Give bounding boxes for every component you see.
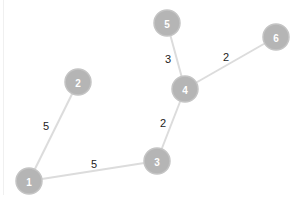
graph-canvas: 55232 123456 [0,0,305,207]
node-label: 3 [154,157,160,168]
edge-weight-label: 3 [165,53,171,65]
node-2[interactable]: 2 [65,69,91,95]
edge-1-2 [29,82,78,181]
node-3[interactable]: 3 [144,148,170,174]
edge-weight-label: 5 [43,120,49,132]
nodes-layer: 123456 [16,10,289,194]
node-label: 5 [164,19,170,30]
node-6[interactable]: 6 [263,24,289,50]
edge-4-6 [185,37,276,89]
node-4[interactable]: 4 [172,76,198,102]
node-label: 2 [75,78,81,89]
edge-weights-layer: 55232 [43,51,229,170]
edge-weight-label: 2 [223,51,229,63]
node-label: 4 [182,85,188,96]
node-5[interactable]: 5 [154,10,180,36]
edge-weight-label: 2 [160,117,166,129]
node-1[interactable]: 1 [16,168,42,194]
node-label: 1 [26,177,32,188]
edge-weight-label: 5 [91,158,97,170]
node-label: 6 [273,33,279,44]
